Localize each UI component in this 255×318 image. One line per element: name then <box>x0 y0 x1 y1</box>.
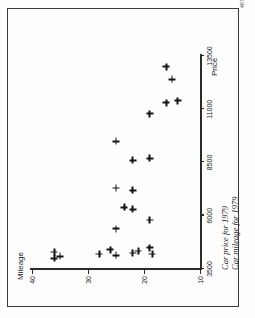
x-tick-label: 11000 <box>206 100 213 119</box>
x-tick-mark <box>200 108 204 109</box>
data-point-marker <box>146 155 153 162</box>
y-tick-label: 40 <box>29 276 36 298</box>
figure-caption: Car price for 1979 Car mileage for 1979 <box>220 197 240 270</box>
data-point-marker <box>121 204 128 211</box>
data-point-marker <box>113 185 120 192</box>
page-folio-number: 467 <box>239 0 255 8</box>
data-point-marker <box>174 97 181 104</box>
data-point-marker <box>96 251 103 258</box>
x-tick-label: 3500 <box>206 261 213 277</box>
data-point-marker <box>129 187 136 194</box>
x-tick-label: 8500 <box>206 155 213 171</box>
x-tick-label: 13500 <box>206 46 213 65</box>
data-point-marker <box>146 217 153 224</box>
y-tick-label: 20 <box>141 276 148 298</box>
data-point-marker <box>135 247 142 254</box>
rotated-figure-container: Price Mileage 35006000850011000135001020… <box>14 16 232 302</box>
x-tick-mark <box>200 55 204 56</box>
data-point-marker <box>129 206 136 213</box>
data-point-marker <box>163 63 170 70</box>
y-tick-mark <box>32 270 33 274</box>
data-point-marker <box>149 251 156 258</box>
data-point-marker <box>113 225 120 232</box>
x-tick-mark <box>200 268 204 269</box>
data-point-marker <box>163 99 170 106</box>
y-tick-mark <box>200 270 201 274</box>
y-axis-title: Mileage <box>16 252 25 280</box>
data-point-marker <box>146 110 153 117</box>
y-tick-label: 10 <box>197 276 204 298</box>
data-point-marker <box>169 76 176 83</box>
y-axis-line <box>30 268 202 270</box>
x-tick-label: 6000 <box>206 208 213 224</box>
y-tick-label: 30 <box>85 276 92 298</box>
y-tick-mark <box>144 270 145 274</box>
data-point-marker <box>107 246 114 253</box>
data-point-marker <box>113 138 120 145</box>
scatter-plot: Price Mileage 35006000850011000135001020… <box>14 16 232 302</box>
x-tick-mark <box>200 214 204 215</box>
x-tick-mark <box>200 161 204 162</box>
y-tick-mark <box>88 270 89 274</box>
data-point-marker <box>129 157 136 164</box>
scanned-page: 467 Price Mileage 3500600085001100013500… <box>0 0 255 318</box>
data-point-marker <box>57 253 64 260</box>
